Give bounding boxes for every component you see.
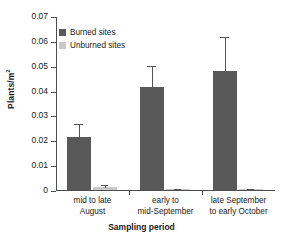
x-axis-tick <box>202 191 203 195</box>
error-bar-cap <box>174 189 181 190</box>
x-axis-line <box>56 190 275 191</box>
x-axis-tick <box>129 191 130 195</box>
legend-swatch-unburned-icon <box>59 42 66 49</box>
x-axis-category-label: mid to lateAugust <box>56 196 129 217</box>
y-axis-tick: 0.07 <box>51 17 56 18</box>
y-axis-tick-label: 0.01 <box>31 160 48 170</box>
legend-item-unburned: Unburned sites <box>59 39 125 51</box>
y-axis-tick-label: 0.02 <box>31 135 48 145</box>
error-bar <box>105 186 106 188</box>
y-axis-tick: 0.04 <box>51 92 56 93</box>
x-axis-category-label: early tomid-September <box>129 196 202 217</box>
y-axis-tick: 0.01 <box>51 166 56 167</box>
y-axis-tick-label: 0.07 <box>31 11 48 21</box>
legend-label-unburned: Unburned sites <box>70 41 125 50</box>
category-label-line: late September <box>202 196 275 207</box>
error-bar-cap <box>247 189 254 190</box>
y-axis-line <box>56 17 57 191</box>
y-axis-title-base: Plants/m <box>6 73 16 109</box>
legend: Burned sites Unburned sites <box>59 26 125 52</box>
error-bar <box>152 67 153 88</box>
legend-item-burned: Burned sites <box>59 26 125 38</box>
y-axis-title-exponent: 2 <box>4 69 11 73</box>
y-axis-tick: 0.03 <box>51 116 56 117</box>
bar-burned <box>67 137 91 190</box>
category-label-line: early to <box>129 196 202 207</box>
y-axis-tick-label: 0.03 <box>31 110 48 120</box>
y-axis-tick-label: 0.05 <box>31 61 48 71</box>
error-bar-cap <box>74 124 83 125</box>
category-label-line: to early October <box>202 207 275 218</box>
bar-burned <box>213 71 237 190</box>
x-axis-title: Sampling period <box>0 222 283 232</box>
category-label-line: mid-September <box>129 207 202 218</box>
y-axis-tick-label: 0.06 <box>31 36 48 46</box>
x-axis-category-label: late Septemberto early October <box>202 196 275 217</box>
error-bar-cap <box>147 66 156 67</box>
bar-chart-figure: Plants/m2 00.010.020.030.040.050.060.07 … <box>0 0 283 246</box>
y-axis-tick: 0 <box>51 191 56 192</box>
category-label-line: August <box>56 207 129 218</box>
legend-swatch-burned-icon <box>59 29 66 36</box>
error-bar-cap <box>101 185 108 186</box>
error-bar <box>79 125 80 137</box>
y-axis-tick-label: 0 <box>43 185 48 195</box>
y-axis-title: Plants/m2 <box>6 49 16 129</box>
bar-burned <box>140 87 164 190</box>
category-label-line: mid to late <box>56 196 129 207</box>
error-bar-cap <box>220 37 229 38</box>
error-bar <box>225 38 226 72</box>
y-axis-tick-label: 0.04 <box>31 86 48 96</box>
y-axis-tick: 0.06 <box>51 42 56 43</box>
y-axis-tick: 0.05 <box>51 67 56 68</box>
y-axis-tick: 0.02 <box>51 141 56 142</box>
legend-label-burned: Burned sites <box>70 28 116 37</box>
